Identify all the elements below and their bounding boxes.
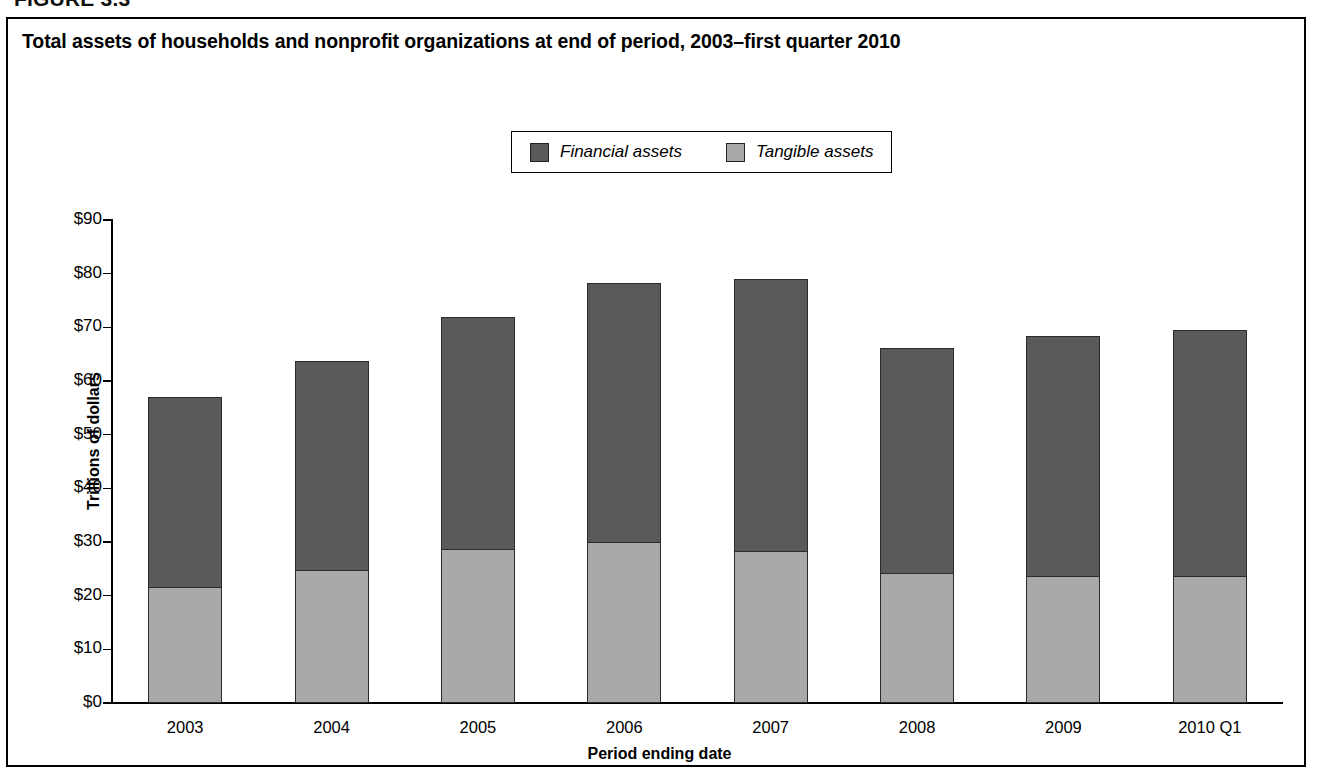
- y-axis-tick-label: $20: [74, 585, 102, 605]
- y-axis-tick: [103, 649, 112, 651]
- tangible-assets-swatch: [726, 143, 745, 162]
- bar-segment-tangible-assets: [587, 541, 661, 703]
- y-axis-tick-label: $30: [74, 531, 102, 551]
- legend-entry-financial-assets: Financial assets: [530, 142, 682, 162]
- bar-segment-tangible-assets: [1026, 575, 1100, 703]
- legend-entry-tangible-assets: Tangible assets: [726, 142, 874, 162]
- y-axis-tick-label: $0: [83, 692, 102, 712]
- bar-segment-financial-assets: [441, 317, 515, 551]
- y-axis-tick: [103, 595, 112, 597]
- x-axis-tick-label: 2008: [847, 718, 987, 737]
- plot-area: [112, 220, 1283, 703]
- y-axis-tick: [103, 273, 112, 275]
- y-axis-tick: [103, 380, 112, 382]
- financial-assets-swatch: [530, 143, 549, 162]
- y-axis-tick: [103, 702, 112, 704]
- bar-segment-tangible-assets: [880, 572, 954, 703]
- y-axis-tick-label: $50: [74, 424, 102, 444]
- chart-title: Total assets of households and nonprofit…: [22, 30, 901, 53]
- bar-segment-financial-assets: [1026, 336, 1100, 576]
- y-axis-tick: [103, 434, 112, 436]
- x-axis-tick-label: 2006: [554, 718, 694, 737]
- bar-segment-financial-assets: [587, 283, 661, 543]
- bar-segment-financial-assets: [734, 279, 808, 553]
- figure-number: FIGURE 3.3: [14, 0, 130, 11]
- y-axis-tick-label: $60: [74, 370, 102, 390]
- legend-label-tangible-assets: Tangible assets: [756, 142, 874, 162]
- y-axis-tick-labels: $0$10$20$30$40$50$60$70$80$90: [40, 220, 102, 703]
- y-axis-tick: [103, 327, 112, 329]
- y-axis-tick: [103, 219, 112, 221]
- bar-segment-financial-assets: [1173, 330, 1247, 577]
- bar-segment-tangible-assets: [1173, 575, 1247, 703]
- y-axis-tick-label: $10: [74, 638, 102, 658]
- bar-segment-financial-assets: [148, 397, 222, 587]
- x-axis-tick-label: 2009: [993, 718, 1133, 737]
- bar-segment-financial-assets: [295, 361, 369, 571]
- bar-segment-tangible-assets: [148, 586, 222, 703]
- y-axis-tick: [103, 541, 112, 543]
- bar-segment-tangible-assets: [441, 549, 515, 703]
- y-axis-tick-label: $40: [74, 477, 102, 497]
- bar-segment-financial-assets: [880, 348, 954, 573]
- x-axis-tick-label: 2010 Q1: [1140, 718, 1280, 737]
- x-axis-tick-label: 2007: [701, 718, 841, 737]
- y-axis-tick-label: $90: [74, 209, 102, 229]
- chart-legend: Financial assets Tangible assets: [511, 131, 892, 173]
- bar-segment-tangible-assets: [295, 570, 369, 703]
- y-axis-tick: [103, 488, 112, 490]
- x-axis-tick-label: 2004: [262, 718, 402, 737]
- bar-segment-tangible-assets: [734, 551, 808, 703]
- x-axis-tick-label: 2003: [115, 718, 255, 737]
- x-axis-tick-label: 2005: [408, 718, 548, 737]
- legend-label-financial-assets: Financial assets: [560, 142, 682, 162]
- x-axis-title: Period ending date: [0, 745, 1319, 763]
- y-axis-tick-label: $70: [74, 316, 102, 336]
- y-axis-tick-label: $80: [74, 263, 102, 283]
